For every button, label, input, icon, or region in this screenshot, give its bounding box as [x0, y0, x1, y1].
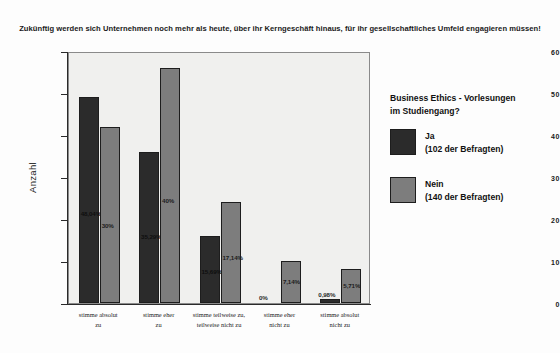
y-axis-tick	[61, 178, 68, 179]
bar-ja	[79, 97, 99, 303]
y-axis-tick-label: 60	[514, 49, 560, 56]
y-axis-tick	[61, 262, 68, 263]
bar-ja	[139, 152, 159, 303]
bar-value-label: 0%	[259, 294, 268, 301]
bar-value-label: 40%	[162, 197, 174, 204]
legend-item-nein: Nein (140 der Befragten)	[390, 177, 556, 203]
legend-label-ja-count: (102 der Befragten)	[425, 143, 503, 156]
bar-value-label: 5,71%	[343, 282, 360, 289]
bar-nein	[221, 202, 241, 303]
legend: Business Ethics - Vorlesungen im Studien…	[390, 92, 556, 225]
bar-ja	[320, 299, 340, 303]
y-axis-tick	[61, 52, 68, 53]
bar-value-label: 0,98%	[318, 291, 335, 298]
bar-value-label: 17,14%	[223, 254, 243, 261]
legend-swatch-ja-icon	[390, 129, 416, 155]
chart-title: Zukünftig werden sich Unternehmen noch m…	[0, 24, 560, 33]
plot-inner: 48,04%30%35,29%40%15,69%17,14%0%7,14%0,9…	[69, 53, 369, 303]
bar-value-label: 35,29%	[141, 233, 161, 240]
x-axis-category-line: stimme absolut	[302, 310, 378, 320]
x-axis-category-label: stimme absolutnicht zu	[302, 310, 378, 329]
legend-label-ja: Ja (102 der Befragten)	[425, 129, 503, 155]
legend-item-ja: Ja (102 der Befragten)	[390, 129, 556, 155]
y-axis-title: Anzahl	[27, 138, 38, 218]
y-axis-tick-label: 0	[514, 301, 560, 308]
y-axis-tick	[61, 304, 68, 305]
y-axis-tick-label: 10	[514, 259, 560, 266]
bar-value-label: 30%	[102, 222, 114, 229]
plot-area: 48,04%30%35,29%40%15,69%17,14%0%7,14%0,9…	[68, 52, 370, 304]
bar-nein	[160, 68, 180, 303]
x-axis-category-line: nicht zu	[302, 320, 378, 330]
chart-root: Zukünftig werden sich Unternehmen noch m…	[0, 0, 560, 353]
legend-label-nein: Nein (140 der Befragten)	[425, 177, 503, 203]
legend-swatch-nein-icon	[390, 177, 416, 203]
legend-title-line2: im Studiengang?	[390, 105, 556, 118]
y-axis-tick	[61, 220, 68, 221]
bar-value-label: 15,69%	[202, 268, 222, 275]
legend-title-line1: Business Ethics - Vorlesungen	[390, 92, 556, 105]
x-axis-line	[67, 304, 371, 305]
legend-label-nein-name: Nein	[425, 178, 503, 191]
y-axis-tick	[61, 136, 68, 137]
bar-value-label: 48,04%	[81, 210, 101, 217]
bar-value-label: 7,14%	[283, 278, 300, 285]
legend-label-nein-count: (140 der Befragten)	[425, 191, 503, 204]
bar-nein	[100, 127, 120, 303]
legend-title: Business Ethics - Vorlesungen im Studien…	[390, 92, 556, 117]
legend-label-ja-name: Ja	[425, 130, 503, 143]
y-axis-tick	[61, 94, 68, 95]
